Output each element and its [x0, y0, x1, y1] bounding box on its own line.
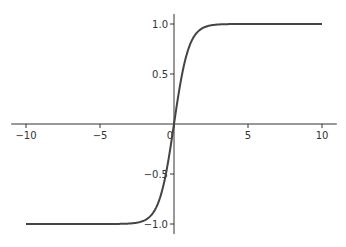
x-tick-label: −5: [93, 130, 108, 141]
x-tick-label: 10: [316, 130, 329, 141]
x-tick-label: 5: [245, 130, 251, 141]
y-tick-label: 1.0: [152, 19, 168, 30]
y-tick-label: 0.5: [152, 69, 168, 80]
tanh-chart: −10−50510−1.0−0.50.51.0: [0, 0, 346, 247]
x-tick-label: −10: [15, 130, 36, 141]
y-tick-label: −1.0: [144, 219, 168, 230]
